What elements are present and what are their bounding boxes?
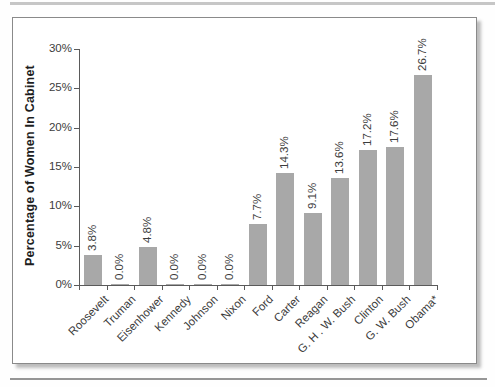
x-axis-tick: [189, 286, 190, 290]
x-axis-tick: [272, 286, 273, 290]
bar-g-w-bush: [386, 147, 404, 285]
top-divider: [10, 2, 495, 5]
x-axis-tick: [244, 286, 245, 290]
bar-clinton: [359, 150, 377, 285]
bar-carter: [276, 173, 294, 285]
x-axis-tick: [409, 286, 410, 290]
x-category-label-roosevelt: Roosevelt: [66, 293, 111, 338]
bar-reagan: [304, 213, 322, 285]
bar-value-label-carter: 14.3%: [278, 136, 291, 169]
bar-ford: [249, 224, 267, 285]
x-axis-tick: [437, 286, 438, 290]
x-axis-tick: [354, 286, 355, 290]
y-axis-tick: [74, 206, 79, 207]
x-axis-tick: [217, 286, 218, 290]
x-axis-tick: [162, 286, 163, 290]
bar-value-label-clinton: 17.2%: [361, 113, 374, 146]
y-axis-tick: [74, 246, 79, 247]
y-tick-label: 30%: [27, 42, 72, 55]
x-axis-tick: [107, 286, 108, 290]
bar-value-label-truman: 0.0%: [113, 254, 126, 280]
bar-value-label-eisenhower: 4.8%: [141, 217, 154, 243]
bar-nixon: [221, 284, 239, 285]
y-axis-line: [79, 49, 80, 286]
bar-roosevelt: [84, 255, 102, 285]
bottom-divider: [10, 378, 487, 380]
y-tick-label: 25%: [27, 81, 72, 94]
bar-value-label-nixon: 0.0%: [223, 254, 236, 280]
bar-value-label-g-h-w-bush: 13.6%: [333, 141, 346, 174]
bar-value-label-reagan: 9.1%: [306, 183, 319, 209]
y-tick-label: 10%: [27, 199, 72, 212]
page: Percentage of Women In Cabinet 0%5%10%15…: [0, 0, 495, 387]
bar-value-label-kennedy: 0.0%: [168, 254, 181, 280]
x-axis-line: [79, 285, 438, 286]
x-axis-tick: [327, 286, 328, 290]
y-axis-tick: [74, 167, 79, 168]
x-axis-tick: [299, 286, 300, 290]
bar-value-label-ford: 7.7%: [251, 194, 264, 220]
bar-value-label-obama: 26.7%: [416, 38, 429, 71]
chart-frame: Percentage of Women In Cabinet 0%5%10%15…: [12, 17, 477, 364]
y-axis-tick: [74, 128, 79, 129]
y-tick-label: 0%: [27, 278, 72, 291]
y-tick-label: 5%: [27, 239, 72, 252]
bar-truman: [111, 284, 129, 285]
y-axis-tick: [74, 49, 79, 50]
bar-g-h-w-bush: [331, 178, 349, 285]
y-tick-label: 20%: [27, 121, 72, 134]
bar-value-label-g-w-bush: 17.6%: [388, 110, 401, 143]
x-axis-tick: [79, 286, 80, 290]
y-axis-tick: [74, 88, 79, 89]
bar-johnson: [194, 284, 212, 285]
x-category-label-nixon: Nixon: [218, 293, 248, 323]
bar-kennedy: [166, 284, 184, 285]
bar-obama: [414, 75, 432, 285]
bar-value-label-roosevelt: 3.8%: [86, 225, 99, 251]
bar-value-label-johnson: 0.0%: [196, 254, 209, 280]
bar-eisenhower: [139, 247, 157, 285]
x-axis-tick: [134, 286, 135, 290]
x-axis-tick: [382, 286, 383, 290]
y-tick-label: 15%: [27, 160, 72, 173]
